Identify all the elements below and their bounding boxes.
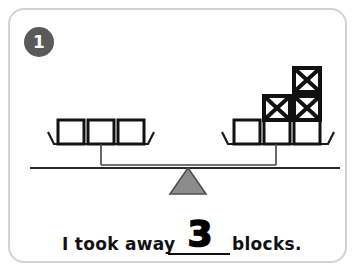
answer-value: 3: [180, 216, 220, 252]
left-block-plain-2: [88, 120, 114, 144]
right-block-plain-3: [294, 120, 320, 144]
sentence-suffix: blocks.: [232, 234, 302, 254]
right-block-crossed-1: [264, 96, 290, 120]
right-block-plain-1: [234, 120, 260, 144]
left-pan-group: [48, 120, 154, 165]
balance-scale-diagram: [10, 10, 349, 210]
right-pan-group: [222, 68, 334, 165]
right-block-crossed-3: [294, 68, 320, 92]
left-block-plain-3: [118, 120, 144, 144]
fulcrum-triangle: [170, 168, 206, 194]
sentence-prefix: I took away: [62, 234, 175, 254]
left-block-plain-1: [58, 120, 84, 144]
worksheet-card: 1: [8, 8, 347, 263]
right-block-crossed-2: [294, 96, 320, 120]
answer-sentence: I took away 3 blocks.: [10, 222, 349, 262]
right-block-plain-2: [264, 120, 290, 144]
